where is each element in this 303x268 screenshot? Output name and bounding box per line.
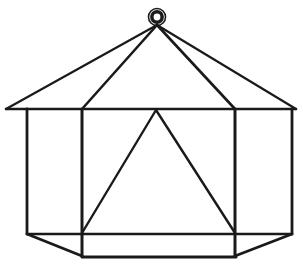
apex-ring-hole <box>154 14 161 21</box>
figure-canvas: Hexagonal gazebo wireframe line drawing <box>0 0 303 268</box>
figure-background <box>0 0 303 268</box>
apex-ring-group <box>149 9 166 26</box>
gazebo-line-drawing: Hexagonal gazebo wireframe line drawing <box>0 0 303 268</box>
